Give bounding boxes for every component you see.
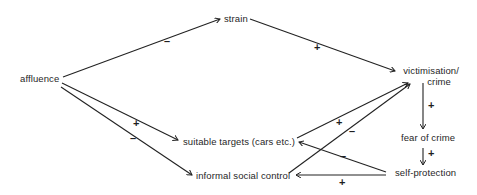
node-victimisation-line2: crime bbox=[399, 76, 451, 87]
sign-affluence-targets: + bbox=[133, 118, 139, 129]
node-affluence: affluence bbox=[20, 73, 59, 84]
edge-affluence-control bbox=[61, 87, 192, 175]
edge-strain-victimisation bbox=[250, 19, 395, 71]
sign-victimisation-fear: + bbox=[428, 100, 434, 111]
node-suitable-targets: suitable targets (cars etc.) bbox=[183, 136, 295, 147]
node-fear-of-crime: fear of crime bbox=[401, 132, 455, 143]
node-victimisation-line1: victimisation/ bbox=[399, 65, 459, 76]
node-self-protection: self-protection bbox=[395, 167, 456, 178]
sign-strain-victimisation: + bbox=[314, 42, 320, 53]
sign-fear-selfprotection: + bbox=[428, 148, 434, 159]
sign-selfprotection-control: + bbox=[339, 177, 345, 188]
edge-affluence-targets bbox=[62, 83, 178, 140]
sign-affluence-strain: – bbox=[164, 36, 170, 47]
sign-control-victimisation: – bbox=[349, 126, 355, 137]
sign-selfprotection-targets: – bbox=[340, 151, 346, 162]
node-informal-social-control: informal social control bbox=[196, 170, 290, 181]
node-strain: strain bbox=[224, 13, 248, 24]
edge-affluence-strain bbox=[63, 19, 220, 77]
sign-affluence-control: – bbox=[130, 133, 136, 144]
diagram-edges bbox=[0, 0, 477, 195]
sign-targets-victimisation: + bbox=[336, 117, 342, 128]
